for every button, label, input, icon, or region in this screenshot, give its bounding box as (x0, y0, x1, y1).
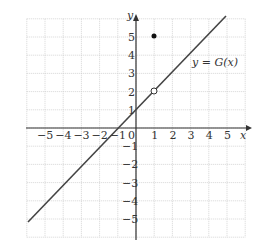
x-axis-label: x (240, 129, 247, 142)
svg-text:3: 3 (188, 129, 195, 142)
y-axis-arrow-icon (133, 14, 139, 21)
origin-label: 0 (128, 129, 135, 142)
svg-text:−3: −3 (122, 177, 138, 190)
svg-text:4: 4 (206, 129, 213, 142)
svg-text:−4: −4 (122, 195, 138, 208)
line-g (28, 16, 226, 222)
svg-text:2: 2 (169, 129, 176, 142)
svg-text:1: 1 (151, 129, 158, 142)
svg-text:−2: −2 (122, 158, 138, 171)
graph: −5−4−3−2−112345−5−4−3−2−112345 y x y = G… (0, 0, 261, 252)
svg-text:−5: −5 (37, 129, 53, 142)
curve-label: y = G(x) (191, 56, 238, 69)
open-point (151, 88, 157, 94)
svg-text:1: 1 (128, 104, 135, 117)
filled-point (152, 34, 157, 39)
x-axis-arrow-icon (246, 125, 252, 131)
svg-text:4: 4 (128, 49, 135, 62)
svg-text:2: 2 (128, 86, 135, 99)
svg-text:−4: −4 (55, 129, 71, 142)
svg-text:3: 3 (128, 67, 135, 80)
svg-text:−3: −3 (73, 129, 89, 142)
svg-text:5: 5 (128, 31, 135, 44)
svg-text:5: 5 (224, 129, 231, 142)
svg-text:−2: −2 (92, 129, 108, 142)
svg-text:−1: −1 (122, 140, 138, 153)
y-axis-label: y (126, 9, 134, 22)
svg-text:−5: −5 (122, 213, 138, 226)
